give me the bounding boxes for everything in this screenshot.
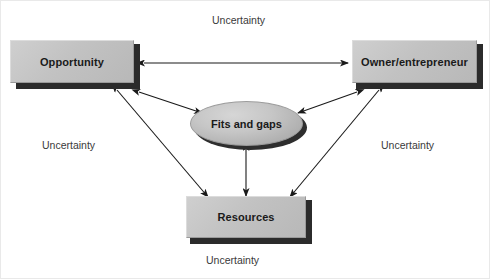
node-owner-entrepreneur-label: Owner/entrepreneur xyxy=(361,56,468,68)
node-resources-extrusion-bottom xyxy=(190,238,312,244)
node-opportunity-label: Opportunity xyxy=(40,56,104,68)
diagram-canvas: Opportunity Owner/entrepreneur Resources… xyxy=(0,0,491,280)
label-uncertainty-right: Uncertainty xyxy=(381,139,434,151)
label-uncertainty-left: Uncertainty xyxy=(42,139,95,151)
connector-owner-center xyxy=(298,92,357,113)
label-uncertainty-top: Uncertainty xyxy=(212,14,265,26)
node-resources[interactable]: Resources xyxy=(186,196,306,238)
node-owner-entrepreneur[interactable]: Owner/entrepreneur xyxy=(352,40,477,83)
node-resources-label: Resources xyxy=(217,211,274,223)
node-owner-extrusion-bottom xyxy=(356,83,483,89)
node-fits-and-gaps[interactable]: Fits and gaps xyxy=(190,101,303,146)
connector-owner-resources xyxy=(290,90,379,197)
connector-opportunity-center xyxy=(139,92,202,113)
label-uncertainty-bottom: Uncertainty xyxy=(206,254,259,266)
node-opportunity-extrusion-bottom xyxy=(16,83,140,89)
connector-opportunity-resources xyxy=(117,90,208,197)
node-fits-and-gaps-label: Fits and gaps xyxy=(211,118,282,130)
node-opportunity[interactable]: Opportunity xyxy=(10,40,134,83)
